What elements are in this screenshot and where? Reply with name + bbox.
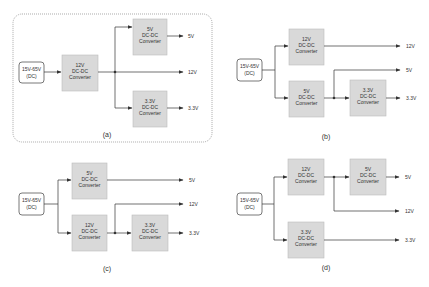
input-source: 15V-65V (DC) — [237, 193, 262, 215]
svg-text:3.3V: 3.3V — [405, 237, 416, 243]
svg-text:15V-65V: 15V-65V — [240, 63, 260, 69]
svg-text:12V: 12V — [406, 43, 416, 49]
svg-text:Converter: Converter — [139, 110, 161, 116]
svg-text:Converter: Converter — [79, 234, 101, 240]
converter-3v3: 3.3V DC-DC Converter — [288, 222, 324, 258]
svg-text:Converter: Converter — [69, 74, 91, 80]
svg-text:Converter: Converter — [357, 99, 379, 105]
svg-text:5V: 5V — [406, 67, 413, 73]
panel-c: 15V-65V (DC) 5V DC-DC Converter 12V DC-D… — [19, 163, 200, 273]
converter-12v: 12V DC-DC Converter — [62, 55, 98, 91]
svg-text:Converter: Converter — [296, 48, 318, 54]
svg-text:15V-65V: 15V-65V — [240, 197, 260, 203]
svg-text:Converter: Converter — [79, 182, 101, 188]
converter-3v3: 3.3V DC-DC Converter — [133, 91, 167, 127]
converter-12v: 12V DC-DC Converter — [288, 159, 324, 195]
panel-caption: (a) — [103, 131, 112, 139]
output-label: 5V — [188, 33, 195, 39]
svg-text:5V: 5V — [405, 174, 412, 180]
converter-12v: 12V DC-DC Converter — [72, 215, 107, 251]
converter-5v: 5V DC-DC Converter — [289, 81, 324, 117]
input-sublabel: (DC) — [26, 73, 37, 79]
output-label: 3.3V — [188, 105, 199, 111]
svg-text:(DC): (DC) — [26, 204, 37, 210]
panel-caption: (c) — [103, 265, 111, 273]
input-source: 15V-65V (DC) — [237, 59, 262, 81]
input-source: 15V-65V (DC) — [19, 193, 44, 215]
converter-5v: 5V DC-DC Converter — [72, 163, 107, 199]
output-label: 12V — [188, 69, 198, 75]
svg-text:(DC): (DC) — [244, 70, 255, 76]
svg-text:Converter: Converter — [295, 178, 317, 184]
panel-b: 15V-65V (DC) 12V DC-DC Converter 5V DC-D… — [237, 29, 417, 141]
svg-text:15V-65V: 15V-65V — [22, 197, 42, 203]
panel-caption: (d) — [322, 264, 331, 272]
svg-text:Converter: Converter — [295, 241, 317, 247]
panel-a: 15V-65V (DC) 12V DC-DC Converter 5V DC-D… — [13, 14, 212, 142]
svg-text:Converter: Converter — [139, 234, 161, 240]
svg-text:(DC): (DC) — [244, 204, 255, 210]
input-source: 15V-65V (DC) — [19, 62, 44, 83]
panel-caption: (b) — [322, 133, 331, 141]
svg-text:3.3V: 3.3V — [189, 230, 200, 236]
svg-text:Converter: Converter — [139, 38, 161, 44]
converter-3v3: 3.3V DC-DC Converter — [350, 80, 386, 116]
svg-text:3.3V: 3.3V — [406, 95, 417, 101]
svg-text:5V: 5V — [189, 177, 196, 183]
converter-5v: 5V DC-DC Converter — [350, 159, 386, 195]
input-label: 15V-65V — [22, 66, 42, 72]
converter-5v: 5V DC-DC Converter — [133, 19, 167, 55]
svg-text:Converter: Converter — [296, 100, 318, 106]
svg-text:Converter: Converter — [357, 178, 379, 184]
panel-d: 15V-65V (DC) 12V DC-DC Converter 5V DC-D… — [237, 159, 416, 272]
svg-text:12V: 12V — [189, 201, 199, 207]
svg-text:12V: 12V — [405, 208, 415, 214]
converter-12v: 12V DC-DC Converter — [289, 29, 324, 65]
converter-3v3: 3.3V DC-DC Converter — [132, 215, 168, 251]
